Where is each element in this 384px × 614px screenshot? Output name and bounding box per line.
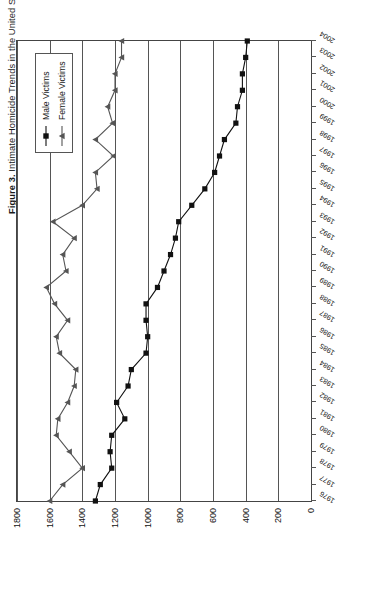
data-point-square [143,301,148,306]
series-male-victims [93,38,250,503]
year-axis-tick [311,500,316,501]
year-axis-tick [311,484,316,485]
year-axis-tick-label: 1986 [318,325,336,341]
data-point-square [173,236,178,241]
year-axis-tick-label: 1976 [318,489,336,505]
data-point-triangle [105,104,111,110]
year-axis-tick-label: 1991 [318,243,336,259]
year-axis-tick-label: 1981 [318,407,336,423]
year-axis-tick-label: 1987 [318,309,336,325]
data-point-square [240,88,245,93]
year-axis-tick [311,106,316,107]
data-point-square [235,104,240,109]
value-axis-tick-label: 0 [306,508,316,513]
year-axis-tick [311,188,316,189]
data-point-square [240,71,245,76]
year-axis-tick [311,254,316,255]
year-axis-tick [311,418,316,419]
data-point-square [243,55,248,60]
year-axis-tick [311,237,316,238]
data-point-square [108,449,113,454]
value-axis-tick-label: 800 [175,508,185,523]
legend-item-female-victims: Female Victims [57,61,67,147]
data-point-square [109,433,114,438]
year-axis-tick [311,319,316,320]
chart-legend: Male VictimsFemale Victims [35,53,73,153]
year-axis-tick [311,369,316,370]
value-axis-tick-label: 1600 [45,508,55,528]
series-line [95,41,247,501]
year-axis-tick [311,204,316,205]
year-axis-tick [311,171,316,172]
data-point-triangle [60,251,66,257]
year-axis-tick-label: 1979 [318,440,336,456]
year-axis-tick-label: 1983 [318,374,336,390]
year-axis-tick-label: 1988 [318,292,336,308]
year-axis-tick-label: 2001 [318,79,336,95]
year-axis-tick-label: 1993 [318,210,336,226]
year-axis-tick [311,401,316,402]
plot-area: 0200400600800100012001400160018001976197… [16,40,312,502]
data-point-triangle [65,399,71,405]
data-point-square [145,334,150,339]
data-point-square [122,416,127,421]
year-axis-tick-label: 1985 [318,342,336,358]
year-axis-tick [311,56,316,57]
year-axis-tick-label: 2002 [318,62,336,78]
chart: 0200400600800100012001400160018001976197… [0,0,384,576]
year-axis-tick-label: 1977 [318,473,336,489]
year-axis-tick [311,89,316,90]
data-point-triangle [79,202,85,208]
year-axis-tick-label: 1995 [318,177,336,193]
value-axis-tick-label: 1000 [143,508,153,528]
value-axis-tick-label: 200 [273,508,283,523]
value-axis-tick-label: 1800 [12,508,22,528]
data-point-square [143,318,148,323]
value-axis-tick-label: 600 [208,508,218,523]
year-axis-tick-label: 1978 [318,457,336,473]
year-axis-tick-label: 1994 [318,194,336,210]
year-axis-tick-label: 1990 [318,259,336,275]
year-axis-tick-label: 1980 [318,424,336,440]
data-point-square [189,203,194,208]
year-axis-tick-label: 1984 [318,358,336,374]
data-point-square [93,498,98,503]
data-point-square [109,466,114,471]
value-axis-tick-label: 1200 [110,508,120,528]
year-axis-tick-label: 1998 [318,128,336,144]
year-axis-tick-label: 1997 [318,144,336,160]
year-axis-tick [311,221,316,222]
year-axis-tick [311,385,316,386]
data-point-triangle [50,219,56,225]
legend-label: Female Victims [57,61,67,120]
year-axis-tick-label: 2000 [318,95,336,111]
data-point-triangle [53,334,59,340]
data-point-square [217,153,222,158]
data-point-square [129,367,134,372]
year-axis-tick-label: 2004 [318,29,336,45]
data-point-triangle [43,284,49,290]
data-point-square [245,38,250,43]
year-axis-tick [311,434,316,435]
year-axis-tick-label: 1989 [318,276,336,292]
data-point-square [212,170,217,175]
year-axis-tick-label: 1992 [318,227,336,243]
year-axis-tick-label: 2003 [318,46,336,62]
data-point-square [114,400,119,405]
year-axis-tick [311,336,316,337]
year-axis-tick-label: 1982 [318,391,336,407]
year-axis-tick [311,451,316,452]
data-point-square [98,482,103,487]
data-point-triangle [51,301,57,307]
year-axis-tick [311,303,316,304]
data-point-square [161,268,166,273]
year-axis-tick-label: 1999 [318,112,336,128]
year-axis-tick [311,270,316,271]
legend-marker-filled-triangle [57,125,67,147]
legend-label: Male Victims [41,71,51,120]
value-axis-tick-label: 1400 [77,508,87,528]
year-axis-tick [311,139,316,140]
data-point-triangle [92,136,98,142]
data-point-square [125,383,130,388]
data-point-square [233,121,238,126]
